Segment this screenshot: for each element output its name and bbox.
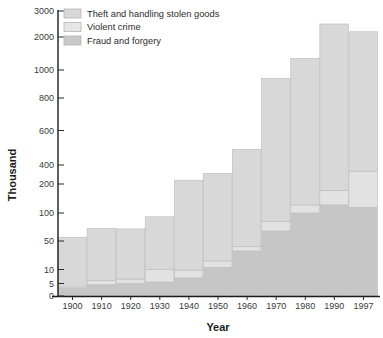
x-tick-label: 1990: [324, 301, 344, 311]
bar-segment[interactable]: [320, 205, 348, 296]
bar-stack[interactable]: [233, 149, 261, 296]
bar-stack[interactable]: [174, 180, 202, 296]
y-tick-label: 600: [39, 126, 54, 136]
x-tick-label: 1980: [295, 301, 315, 311]
bar-segment[interactable]: [174, 270, 202, 278]
bar-segment[interactable]: [87, 285, 115, 296]
y-tick-label: 0: [49, 291, 54, 301]
bar-stack[interactable]: [87, 229, 115, 296]
y-tick-label: 1000: [34, 65, 54, 75]
bar-segment[interactable]: [233, 149, 261, 246]
bar-segment[interactable]: [320, 190, 348, 205]
bar-segment[interactable]: [349, 207, 377, 296]
x-tick-label: 1960: [237, 301, 257, 311]
bar-segment[interactable]: [320, 24, 348, 190]
bar-segment[interactable]: [145, 269, 173, 282]
bar-segment[interactable]: [233, 251, 261, 296]
y-axis-title: Thousand: [6, 149, 18, 202]
bar-segment[interactable]: [349, 171, 377, 207]
chart-canvas: 051050100200400600800100020003000 190019…: [0, 0, 383, 338]
y-tick-label: 10: [44, 265, 54, 275]
bar-segment[interactable]: [58, 289, 86, 297]
bar-segment[interactable]: [116, 279, 144, 283]
x-tick-label: 1997: [353, 301, 373, 311]
x-tick-label: 1910: [92, 301, 112, 311]
legend-label: Theft and handling stolen goods: [87, 9, 220, 19]
bar-segment[interactable]: [87, 229, 115, 281]
y-tick-label: 100: [39, 208, 54, 218]
x-axis-title: Year: [206, 321, 230, 333]
x-tick-label: 1930: [150, 301, 170, 311]
legend-swatch: [64, 9, 81, 18]
bar-segment[interactable]: [174, 278, 202, 296]
bar-stack[interactable]: [203, 174, 231, 296]
bar-segment[interactable]: [174, 180, 202, 270]
y-tick-label: 800: [39, 93, 54, 103]
bar-segment[interactable]: [233, 247, 261, 251]
bar-stack[interactable]: [58, 237, 86, 296]
bar-stack[interactable]: [349, 32, 377, 296]
y-tick-label: 5: [49, 279, 54, 289]
bar-segment[interactable]: [291, 58, 319, 204]
bar-segment[interactable]: [262, 231, 290, 296]
bar-stack[interactable]: [116, 229, 144, 296]
x-tick-label: 1970: [266, 301, 286, 311]
legend-swatch: [64, 36, 81, 45]
bar-stack[interactable]: [320, 24, 348, 296]
bar-segment[interactable]: [262, 221, 290, 231]
legend-swatch: [64, 23, 81, 32]
bar-segment[interactable]: [291, 205, 319, 213]
bar-segment[interactable]: [116, 229, 144, 279]
bar-stack[interactable]: [291, 58, 319, 296]
bar-segment[interactable]: [203, 174, 231, 261]
bar-segment[interactable]: [145, 282, 173, 296]
bar-segment[interactable]: [145, 217, 173, 270]
x-tick-label: 1950: [208, 301, 228, 311]
legend-label: Fraud and forgery: [87, 36, 161, 46]
bar-segment[interactable]: [203, 261, 231, 267]
x-tick-label: 1900: [63, 301, 83, 311]
crime-statistics-stacked-bar-chart: 051050100200400600800100020003000 190019…: [0, 0, 383, 338]
bar-segment[interactable]: [349, 32, 377, 171]
bar-segment[interactable]: [262, 78, 290, 221]
y-tick-label: 3000: [34, 6, 54, 16]
bar-segment[interactable]: [58, 237, 86, 287]
bar-segment[interactable]: [203, 267, 231, 296]
bar-stack[interactable]: [262, 78, 290, 296]
y-tick-label: 2000: [34, 32, 54, 42]
y-tick-label: 50: [44, 236, 54, 246]
legend-label: Violent crime: [87, 22, 141, 32]
y-tick-label: 200: [39, 179, 54, 189]
bar-segment[interactable]: [87, 280, 115, 284]
bar-stack[interactable]: [145, 217, 173, 296]
bar-segment[interactable]: [291, 213, 319, 296]
x-tick-label: 1940: [179, 301, 199, 311]
y-tick-label: 400: [39, 160, 54, 170]
bar-segment[interactable]: [116, 284, 144, 297]
x-tick-label: 1920: [121, 301, 141, 311]
